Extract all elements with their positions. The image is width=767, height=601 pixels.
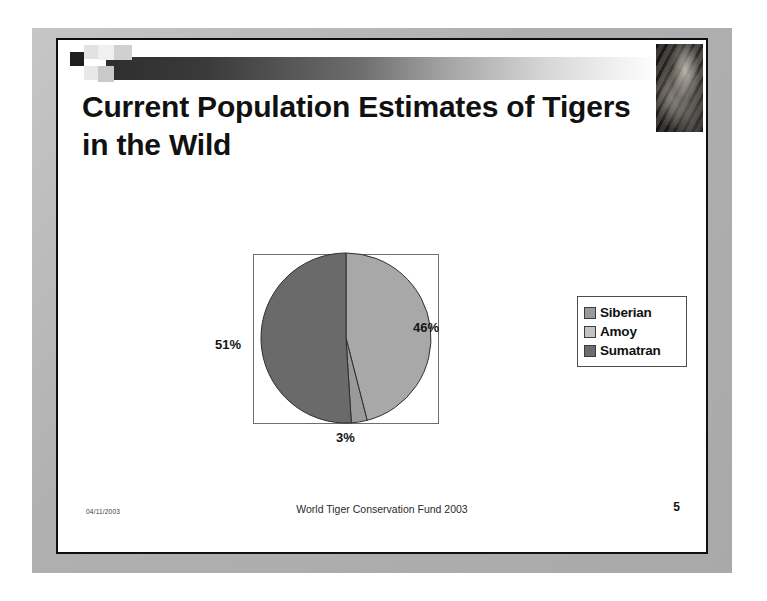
legend-swatch-amoy [584,326,596,338]
decor-square-dark [70,52,84,66]
legend-swatch-siberian [584,307,596,319]
pie-slice-sumatran [261,253,351,423]
header-gradient-bar [106,57,660,80]
pie-label-3: 3% [336,430,355,445]
legend-swatch-sumatran [584,345,596,357]
presentation-slide: Current Population Estimates of Tigers i… [58,40,706,552]
chart-legend: Siberian Amoy Sumatran [577,296,687,367]
tiger-photo-image [656,44,703,132]
footer-center-text: World Tiger Conservation Fund 2003 [58,503,706,515]
legend-label-siberian: Siberian [600,305,652,320]
pie-label-46: 46% [413,320,439,335]
slide-title: Current Population Estimates of Tigers i… [82,88,662,164]
legend-label-sumatran: Sumatran [600,343,661,358]
screenshot-canvas: Current Population Estimates of Tigers i… [0,0,767,601]
legend-item-sumatran: Sumatran [584,341,680,360]
decor-square-light-2 [84,66,98,80]
pie-chart [257,252,435,424]
decor-square-mid [98,66,114,82]
legend-item-siberian: Siberian [584,303,680,322]
pie-chart-svg [257,252,435,424]
legend-item-amoy: Amoy [584,322,680,341]
footer-page-number: 5 [673,500,680,514]
legend-label-amoy: Amoy [600,324,637,339]
decor-square-grey [114,45,132,60]
pie-label-51: 51% [215,337,241,352]
